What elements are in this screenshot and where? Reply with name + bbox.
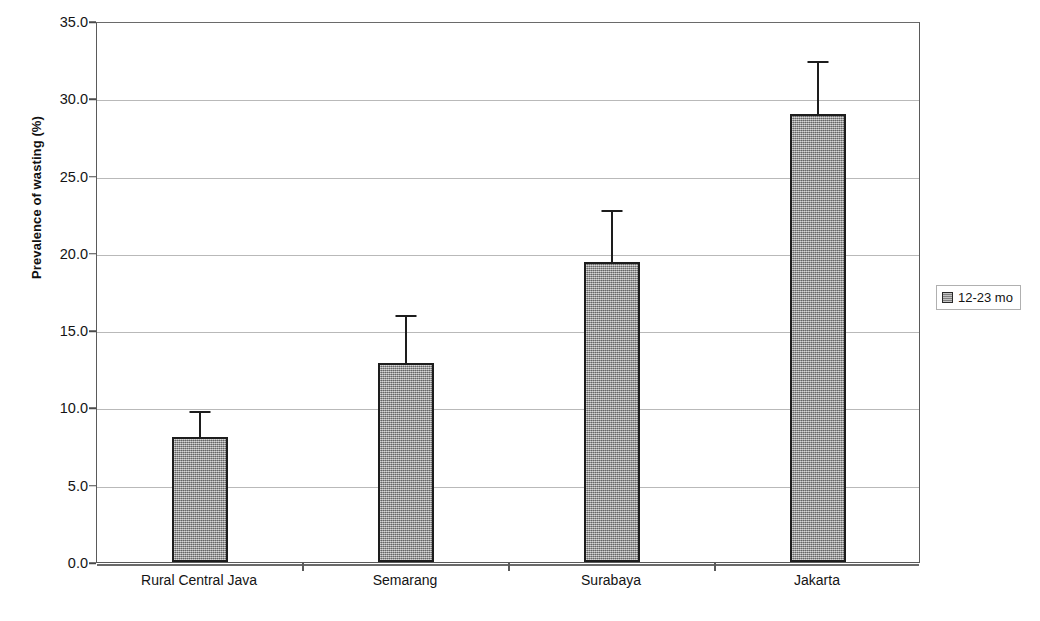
bar-category-band bbox=[715, 21, 921, 562]
error-bar bbox=[199, 411, 201, 437]
y-tick-mark bbox=[89, 21, 96, 23]
bar-category-band bbox=[303, 21, 509, 562]
x-tick-label: Surabaya bbox=[581, 572, 641, 588]
error-bar-cap bbox=[808, 61, 829, 63]
bar-category-band bbox=[509, 21, 715, 562]
x-tick-label: Jakarta bbox=[794, 572, 840, 588]
legend-swatch-icon bbox=[942, 292, 953, 303]
y-tick-mark bbox=[89, 485, 96, 487]
y-tick-mark bbox=[89, 408, 96, 410]
y-tick-mark bbox=[89, 330, 96, 332]
y-tick-label: 15.0 bbox=[18, 323, 88, 339]
y-tick-label: 10.0 bbox=[18, 400, 88, 416]
y-tick-mark bbox=[89, 253, 96, 255]
error-bar bbox=[611, 210, 613, 263]
y-tick-mark bbox=[89, 99, 96, 101]
x-tick-mark bbox=[508, 563, 510, 571]
y-tick-label: 30.0 bbox=[18, 91, 88, 107]
y-tick-mark bbox=[89, 562, 96, 564]
x-tick-mark bbox=[714, 563, 716, 571]
bar[interactable] bbox=[378, 363, 434, 562]
y-tick-label: 0.0 bbox=[18, 555, 88, 571]
error-bar-cap bbox=[190, 411, 211, 413]
bar[interactable] bbox=[584, 262, 640, 562]
bar-category-band bbox=[97, 21, 303, 562]
y-tick-label: 25.0 bbox=[18, 169, 88, 185]
bar[interactable] bbox=[172, 437, 228, 562]
error-bar bbox=[817, 61, 819, 114]
plot-area bbox=[96, 22, 920, 563]
error-bar bbox=[405, 315, 407, 363]
legend-label: 12-23 mo bbox=[958, 290, 1013, 305]
y-tick-label: 35.0 bbox=[18, 14, 88, 30]
x-tick-label: Rural Central Java bbox=[141, 572, 257, 588]
bar[interactable] bbox=[790, 114, 846, 562]
x-tick-mark bbox=[302, 563, 304, 571]
bar-chart-figure: Prevalence of wasting (%) 0.05.010.015.0… bbox=[0, 0, 1040, 621]
y-tick-mark bbox=[89, 176, 96, 178]
legend: 12-23 mo bbox=[936, 285, 1021, 310]
x-tick-label: Semarang bbox=[373, 572, 438, 588]
error-bar-cap bbox=[602, 210, 623, 212]
error-bar-cap bbox=[396, 315, 417, 317]
y-tick-label: 20.0 bbox=[18, 246, 88, 262]
y-axis-title: Prevalence of wasting (%) bbox=[29, 78, 44, 318]
y-tick-label: 5.0 bbox=[18, 478, 88, 494]
